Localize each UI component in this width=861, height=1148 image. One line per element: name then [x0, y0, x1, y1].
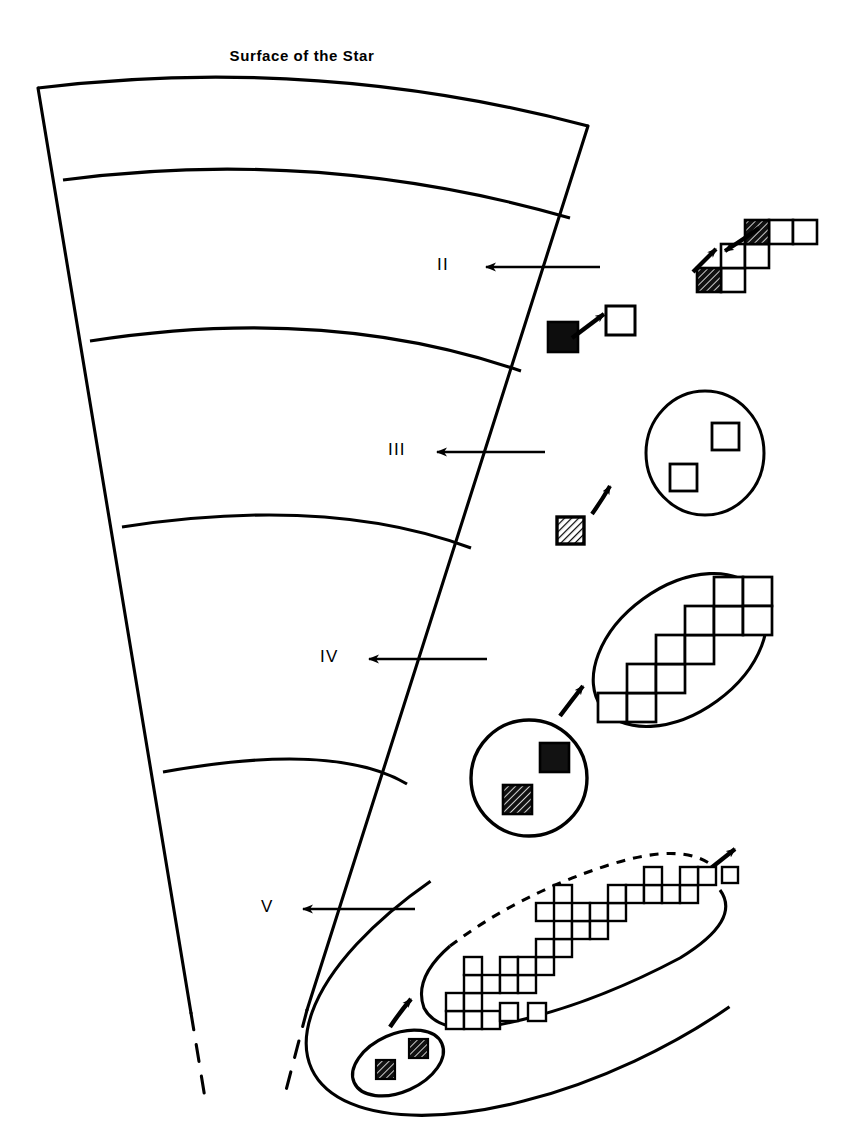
zone-label-iii: III	[388, 440, 406, 460]
tile-empty	[685, 606, 714, 635]
tile-empty	[769, 220, 793, 244]
wedge-arcs	[38, 77, 588, 784]
tile-empty	[464, 975, 482, 993]
tile-empty	[662, 885, 680, 903]
tile-empty	[743, 577, 772, 606]
tile-empty	[518, 975, 536, 993]
figure-title: Surface of the Star	[0, 47, 604, 64]
figure-root: Surface of the Star II III IV V	[0, 0, 861, 1148]
tile-empty	[518, 957, 536, 975]
tile-hatched-dark	[376, 1060, 395, 1079]
tile-empty	[627, 693, 656, 722]
tile-empty	[590, 903, 608, 921]
tile-empty	[670, 464, 697, 491]
tile-empty	[500, 957, 518, 975]
tile-hatched-dark	[409, 1039, 428, 1058]
motif-ellipse-staircase-cluster	[560, 542, 796, 758]
tile-empty	[446, 993, 464, 1011]
tile-empty	[464, 1011, 482, 1029]
tile-empty	[572, 921, 590, 939]
tile-empty	[590, 921, 608, 939]
tile-empty	[464, 957, 482, 975]
tile-empty	[572, 903, 590, 921]
tile-empty	[714, 606, 743, 635]
tile-empty	[714, 577, 743, 606]
arc-iii-iv	[90, 328, 521, 371]
arc-surface	[38, 77, 588, 126]
zone-label-ii: II	[437, 255, 449, 275]
cluster-boundary-ellipse-solid	[306, 881, 729, 1115]
tile-empty	[627, 664, 656, 693]
motif-circle-two-empty-squares	[646, 391, 764, 515]
tile-empty	[743, 606, 772, 635]
tile-empty	[500, 975, 518, 993]
tile-empty	[644, 867, 662, 885]
motif-small-ellipse-hatched-squares	[342, 1017, 453, 1109]
tile-empty	[644, 885, 662, 903]
arc-iv-v	[122, 515, 471, 548]
tile-empty	[626, 885, 644, 903]
motif-hatched-square-with-arrow	[557, 486, 610, 544]
tile-empty	[656, 635, 685, 664]
tile-empty	[482, 1011, 500, 1029]
zone-label-v: V	[261, 897, 274, 917]
motif-large-ellipse-tile-cluster	[306, 849, 738, 1115]
wedge-outline	[38, 88, 588, 1098]
tile-empty	[446, 1011, 464, 1029]
tile-empty	[536, 903, 554, 921]
wedge-right-edge-dashed	[284, 1010, 307, 1098]
motif-dark-to-empty-pair	[548, 306, 635, 352]
tile-empty	[536, 939, 554, 957]
tile-empty	[722, 867, 738, 883]
tile-empty	[608, 903, 626, 921]
tile-empty	[698, 867, 716, 885]
tile-empty	[745, 244, 769, 268]
tile-empty	[500, 1003, 518, 1021]
cluster-boundary-circle	[646, 391, 764, 515]
stellar-wedge-diagram	[0, 0, 861, 1148]
tile-empty	[536, 957, 554, 975]
tile-empty	[680, 885, 698, 903]
tile-empty	[712, 423, 739, 450]
tile-hatched-dark	[503, 785, 532, 814]
tile-empty	[464, 993, 482, 1011]
tile-empty	[554, 885, 572, 903]
tile-hatched-dark	[697, 268, 721, 292]
motif-circle-two-dark-squares	[471, 720, 587, 836]
tile-empty	[598, 693, 627, 722]
tile-empty	[680, 867, 698, 885]
tile-empty	[721, 268, 745, 292]
transition-arrow-curved	[592, 486, 610, 514]
wedge-left-edge	[38, 88, 191, 1013]
tile-empty	[528, 1003, 546, 1021]
arc-ii-iii	[63, 169, 570, 218]
tile-empty	[793, 220, 817, 244]
tile-empty	[482, 975, 500, 993]
tile-solid-dark	[540, 743, 569, 772]
transition-arrow-curved	[560, 686, 583, 716]
motif-small-staircase-cluster	[693, 220, 817, 292]
zone-label-iv: IV	[320, 647, 338, 667]
tile-empty	[656, 664, 685, 693]
cluster-boundary-circle	[471, 720, 587, 836]
tile-empty	[606, 306, 635, 335]
arc-v-bottom	[163, 759, 407, 784]
tile-empty	[608, 885, 626, 903]
zone-pointer-arrows	[303, 267, 600, 909]
tile-hatched	[557, 517, 584, 544]
cluster-boundary-ellipse	[342, 1017, 453, 1109]
transition-arrow-curved	[390, 999, 411, 1027]
tile-empty	[554, 939, 572, 957]
wedge-left-edge-dashed	[191, 1013, 205, 1098]
tile-empty	[554, 921, 572, 939]
tile-empty	[685, 635, 714, 664]
